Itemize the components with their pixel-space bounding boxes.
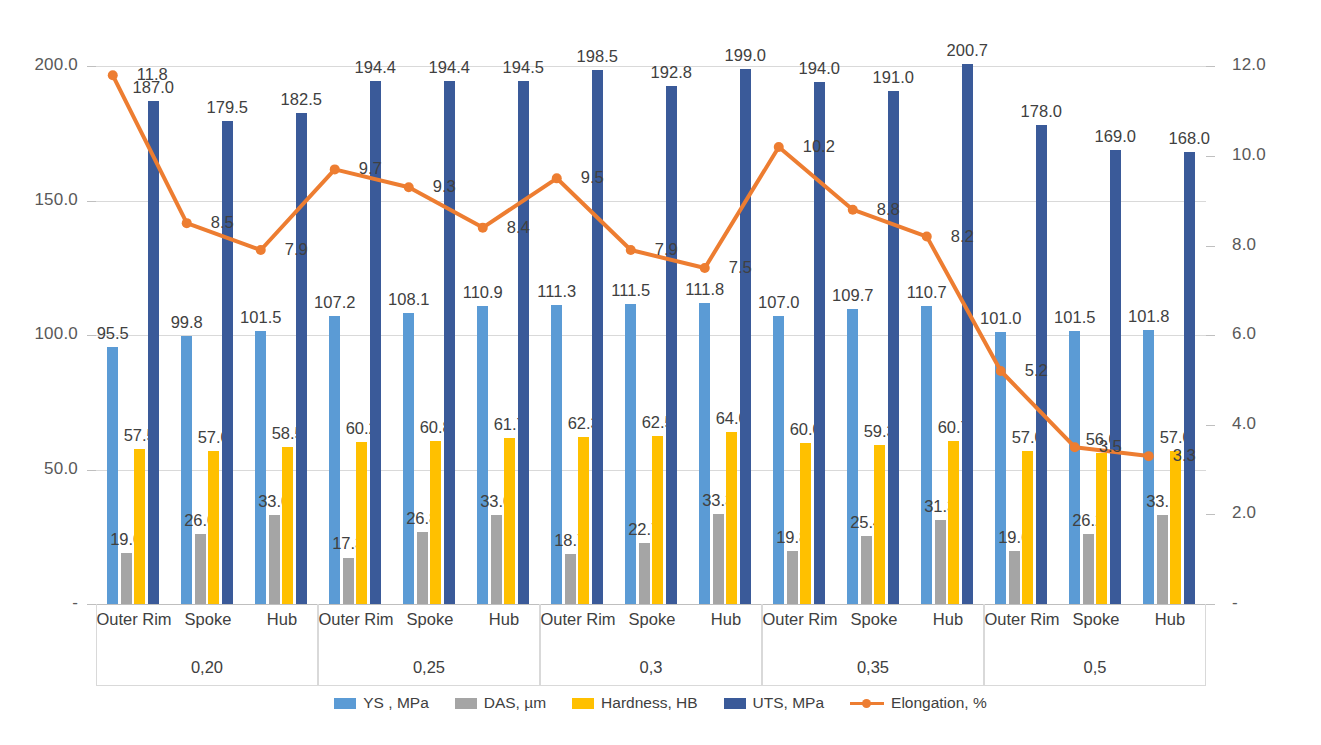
bar-uts[interactable] [962, 64, 973, 604]
bar-hardness[interactable] [1170, 451, 1181, 604]
bar-hardness[interactable] [874, 445, 885, 604]
legend-color-swatch-icon [334, 698, 356, 709]
bar-das[interactable] [491, 515, 502, 604]
elongation-marker[interactable] [848, 205, 858, 215]
bar-das[interactable] [787, 551, 798, 604]
bar-ys[interactable] [773, 316, 784, 604]
bar-das[interactable] [1157, 515, 1168, 604]
bar-data-label: 178.0 [1021, 102, 1062, 121]
bar-data-label: 169.0 [1095, 127, 1136, 146]
bar-das[interactable] [417, 532, 428, 604]
bar-data-label: 168.0 [1169, 129, 1210, 148]
elongation-data-label: 7.9 [285, 240, 308, 259]
bar-das[interactable] [343, 558, 354, 605]
bar-hardness[interactable] [800, 443, 811, 604]
bar-ys[interactable] [921, 306, 932, 604]
category-tick-label: Spoke [1073, 610, 1120, 629]
bar-ys[interactable] [995, 332, 1006, 604]
left-axis-tickmark [87, 66, 96, 67]
bar-uts[interactable] [740, 69, 751, 604]
bar-data-label: 194.5 [503, 58, 544, 77]
bar-hardness[interactable] [356, 442, 367, 604]
bar-ys[interactable] [477, 306, 488, 604]
legend-item[interactable]: Elongation, % [850, 694, 987, 712]
legend-item-label: DAS, µm [484, 694, 546, 712]
bar-hardness[interactable] [948, 441, 959, 604]
right-axis-tickmark [1206, 335, 1215, 336]
bar-das[interactable] [1083, 534, 1094, 604]
bar-ys[interactable] [1143, 330, 1154, 604]
legend-item[interactable]: Hardness, HB [572, 694, 697, 712]
bar-hardness[interactable] [726, 432, 737, 604]
category-tick-label: Outer Rim [984, 610, 1059, 629]
bar-ys[interactable] [551, 305, 562, 604]
elongation-marker[interactable] [700, 263, 710, 273]
elongation-marker[interactable] [256, 245, 266, 255]
bar-ys[interactable] [847, 309, 858, 604]
bar-ys[interactable] [255, 331, 266, 604]
category-tick-label: Hub [933, 610, 963, 629]
bar-das[interactable] [121, 553, 132, 604]
bar-uts[interactable] [1110, 150, 1121, 604]
chart-legend: YS , MPaDAS, µmHardness, HBUTS, MPaElong… [0, 694, 1321, 712]
bar-das[interactable] [861, 536, 872, 604]
elongation-marker[interactable] [182, 218, 192, 228]
bar-uts[interactable] [296, 113, 307, 604]
bar-hardness[interactable] [430, 441, 441, 604]
left-axis-tickmark [87, 604, 96, 605]
bar-uts[interactable] [222, 121, 233, 604]
legend-item[interactable]: YS , MPa [334, 694, 428, 712]
elongation-marker[interactable] [404, 182, 414, 192]
bar-ys[interactable] [403, 313, 414, 604]
bar-uts[interactable] [444, 81, 455, 604]
elongation-data-label: 8.8 [877, 200, 900, 219]
bar-das[interactable] [1009, 551, 1020, 604]
bar-uts[interactable] [1184, 152, 1195, 604]
bar-data-label: 179.5 [207, 98, 248, 117]
bar-ys[interactable] [625, 304, 636, 604]
bar-ys[interactable] [1069, 331, 1080, 604]
bar-hardness[interactable] [1022, 451, 1033, 604]
bar-uts[interactable] [518, 81, 529, 604]
bar-das[interactable] [269, 515, 280, 604]
bar-hardness[interactable] [652, 436, 663, 604]
bar-ys[interactable] [181, 336, 192, 604]
category-tick-label: Spoke [185, 610, 232, 629]
right-axis-tick: - [1232, 593, 1238, 613]
bar-ys[interactable] [699, 303, 710, 604]
bar-data-label: 194.4 [429, 58, 470, 77]
elongation-marker[interactable] [774, 142, 784, 152]
bar-das[interactable] [935, 520, 946, 604]
elongation-marker[interactable] [922, 232, 932, 242]
bar-ys[interactable] [329, 316, 340, 604]
category-axis: Outer RimSpokeHub0,20Outer RimSpokeHub0,… [96, 604, 1206, 686]
elongation-marker[interactable] [108, 70, 118, 80]
bar-uts[interactable] [666, 86, 677, 604]
bar-data-label: 194.0 [799, 59, 840, 78]
bar-hardness[interactable] [134, 449, 145, 604]
bar-das[interactable] [565, 554, 576, 604]
left-axis-tick: 50.0 [0, 459, 78, 479]
bar-uts[interactable] [814, 82, 825, 604]
category-tick-label: Hub [1155, 610, 1185, 629]
bar-uts[interactable] [888, 91, 899, 604]
bar-hardness[interactable] [208, 451, 219, 604]
bar-data-label: 110.9 [463, 283, 503, 302]
elongation-marker[interactable] [626, 245, 636, 255]
elongation-marker[interactable] [552, 173, 562, 183]
bar-das[interactable] [195, 534, 206, 604]
bar-das[interactable] [713, 514, 724, 604]
bar-uts[interactable] [148, 101, 159, 604]
elongation-marker[interactable] [478, 223, 488, 233]
legend-item[interactable]: DAS, µm [455, 694, 546, 712]
bar-hardness[interactable] [504, 438, 515, 604]
bar-hardness[interactable] [578, 437, 589, 604]
bar-das[interactable] [639, 543, 650, 604]
bar-hardness[interactable] [282, 447, 293, 604]
bar-hardness[interactable] [1096, 453, 1107, 604]
bar-ys[interactable] [107, 347, 118, 604]
right-axis-tickmark [1206, 604, 1215, 605]
legend-item[interactable]: UTS, MPa [724, 694, 824, 712]
bar-uts[interactable] [592, 70, 603, 604]
elongation-marker[interactable] [330, 164, 340, 174]
